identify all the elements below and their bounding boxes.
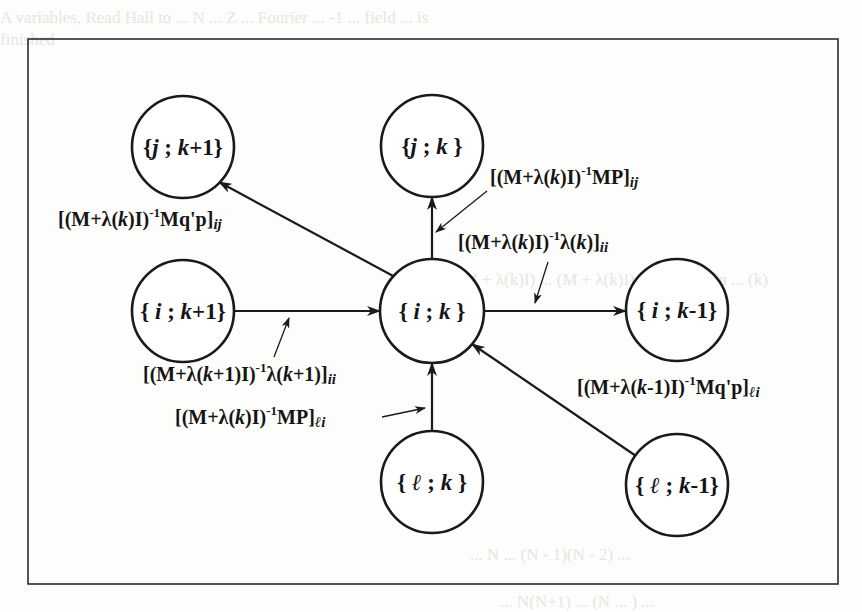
label-mqp-li: [(M+λ(k-1)I)-1Mq'p]ℓi	[577, 373, 760, 400]
svg-text:{j ; k }: {j ; k }	[402, 134, 463, 159]
pointer-mp-li	[382, 408, 425, 417]
svg-text:{j ; k+1}: {j ; k+1}	[143, 135, 223, 160]
pointer-lambda-k-plus-1-ii	[274, 318, 289, 357]
node-i-k: { i ; k }	[380, 259, 484, 363]
pointer-lambda-k-ii	[535, 262, 548, 303]
node-i-k-minus-1: { i ; k-1}	[626, 259, 728, 361]
svg-text:{ ℓ ; k }: { ℓ ; k }	[397, 470, 467, 495]
pointer-mp-ij	[436, 191, 487, 232]
svg-text:{ i ; k-1}: { i ; k-1}	[637, 298, 717, 323]
label-mp-li: [(M+λ(k)I)-1MP]ℓi	[175, 403, 326, 430]
svg-text:{ i ; k }: { i ; k }	[399, 299, 466, 324]
node-j-k-plus-1: {j ; k+1}	[132, 96, 234, 198]
node-j-k: {j ; k }	[381, 95, 483, 197]
edge-l-k-minus-1-to-i-k	[472, 344, 636, 456]
node-i-k-plus-1: { i ; k+1}	[132, 260, 234, 362]
label-lambda-k-plus-1-ii: [(M+λ(k+1)I)-1λ(k+1)]ii	[143, 360, 337, 387]
label-mp-ij: [(M+λ(k)I)-1MP]ij	[490, 163, 639, 190]
label-lambda-k-ii: [(M+λ(k)I)-1λ(k)]ii	[458, 228, 609, 255]
node-l-k: { ℓ ; k }	[381, 431, 483, 533]
edge-i-k-to-j-k-plus-1	[219, 182, 395, 277]
svg-text:{ i ; k+1}: { i ; k+1}	[140, 299, 226, 324]
label-mqp-ij: [(M+λ(k)I)-1Mq'p]ij	[58, 205, 223, 232]
node-l-k-minus-1: { ℓ ; k-1}	[626, 434, 728, 536]
svg-text:{ ℓ ; k-1}: { ℓ ; k-1}	[635, 473, 719, 498]
